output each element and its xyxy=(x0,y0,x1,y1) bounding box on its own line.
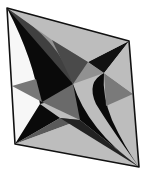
geometric-solid-figure xyxy=(0,0,144,181)
diagram-canvas xyxy=(0,0,144,181)
